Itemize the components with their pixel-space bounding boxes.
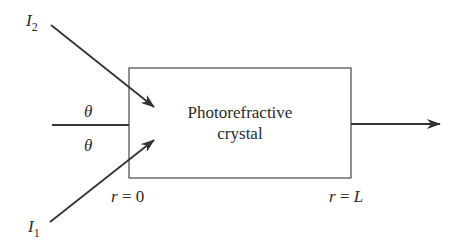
position-start-var: r: [111, 187, 118, 206]
angle-lower: θ: [84, 137, 92, 154]
angle-upper: θ: [84, 103, 92, 120]
position-start-val: 0: [136, 187, 145, 206]
crystal-label-line1: Photorefractive: [129, 102, 351, 123]
position-end-eq: =: [336, 187, 354, 206]
beam-i1-arrow: [50, 140, 154, 222]
label-i1-subscript: 1: [34, 226, 40, 240]
label-i1: I1: [28, 218, 40, 235]
label-i2-symbol: I: [26, 11, 32, 30]
label-i1-symbol: I: [28, 217, 34, 236]
beam-i2-arrow: [51, 25, 154, 107]
position-start-eq: =: [118, 187, 136, 206]
crystal-label-line2: crystal: [129, 123, 351, 144]
position-end-val: L: [354, 187, 363, 206]
label-i2-subscript: 2: [32, 20, 38, 34]
position-end: r = L: [329, 188, 363, 205]
crystal-label: Photorefractive crystal: [129, 102, 351, 144]
position-end-var: r: [329, 187, 336, 206]
position-start: r = 0: [111, 188, 144, 205]
label-i2: I2: [26, 12, 38, 29]
